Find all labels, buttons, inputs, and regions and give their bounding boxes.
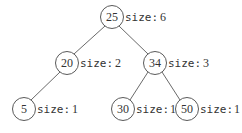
size-label: size: [200, 103, 233, 116]
edge-34-50 [162, 72, 180, 100]
tree-node-30: 30 size: 1 [112, 98, 177, 121]
node-value: 34 [149, 56, 161, 70]
tree-diagram: 25 size: 6 20 size: 2 34 size: 3 5 size:… [0, 0, 242, 133]
node-value: 30 [117, 102, 129, 116]
tree-node-50: 50 size: 1 [176, 98, 241, 121]
size-label: size: [168, 57, 201, 70]
size-value: 1 [234, 102, 240, 116]
size-label: size: [80, 57, 113, 70]
edge-25-20 [74, 26, 105, 54]
tree-node-34: 34 size: 3 [144, 52, 210, 75]
size-label: size: [136, 103, 169, 116]
edge-20-5 [31, 72, 60, 100]
edge-25-34 [119, 26, 148, 54]
size-value: 3 [203, 56, 209, 70]
size-label: size: [37, 103, 70, 116]
tree-node-20: 20 size: 2 [56, 52, 122, 75]
edge-34-30 [130, 72, 148, 100]
size-value: 2 [115, 56, 121, 70]
tree-node-25: 25 size: 6 [101, 6, 167, 29]
node-value: 5 [21, 102, 27, 116]
size-value: 1 [72, 102, 78, 116]
node-value: 50 [181, 102, 193, 116]
node-value: 20 [61, 56, 73, 70]
size-value: 6 [160, 10, 166, 24]
tree-node-5: 5 size: 1 [13, 98, 79, 121]
node-value: 25 [106, 10, 118, 24]
size-label: size: [125, 11, 158, 24]
